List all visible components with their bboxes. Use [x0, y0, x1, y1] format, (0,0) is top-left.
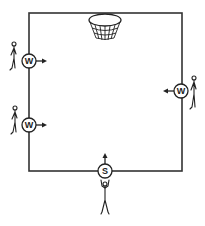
- arrow-left-icon: [163, 89, 174, 94]
- standing-figure-icon: [10, 42, 16, 70]
- svg-text:W: W: [25, 120, 34, 130]
- basketball-hoop-icon: [89, 14, 121, 40]
- shooter-player: S: [98, 153, 112, 214]
- standing-figure-icon: [190, 76, 196, 109]
- svg-text:W: W: [25, 56, 34, 66]
- arrow-right-icon: [36, 59, 47, 64]
- arms-raised-figure-icon: [101, 180, 109, 214]
- player-marker-w: W: [174, 84, 188, 98]
- arrow-up-icon: [103, 153, 108, 164]
- player-marker-w: W: [22, 54, 36, 68]
- svg-text:S: S: [102, 166, 108, 176]
- court-boundary: [29, 13, 182, 171]
- wing-player-right: W: [163, 76, 196, 109]
- arrow-right-icon: [36, 123, 47, 128]
- drill-diagram: W W W: [0, 0, 205, 226]
- standing-figure-icon: [11, 106, 17, 134]
- player-marker-w: W: [22, 118, 36, 132]
- player-marker-s: S: [98, 164, 112, 178]
- svg-text:W: W: [177, 86, 186, 96]
